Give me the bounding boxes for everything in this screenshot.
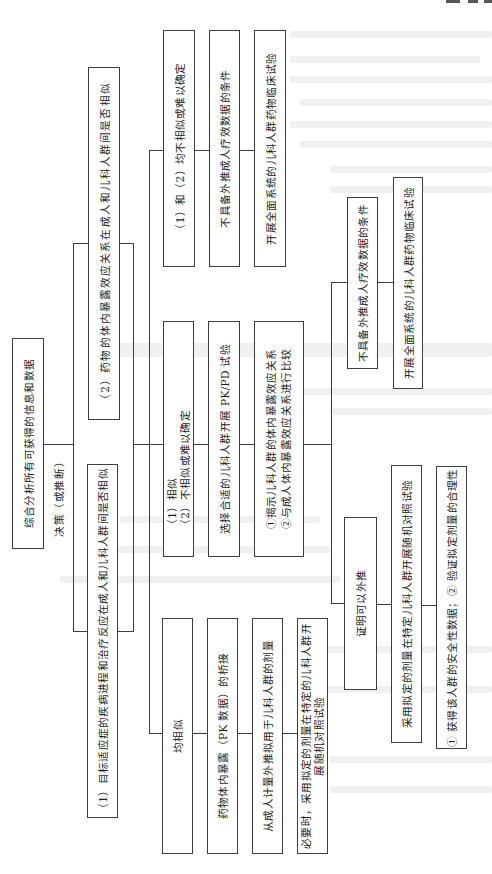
sub-branch-bus-line xyxy=(331,282,332,604)
connector-line xyxy=(422,605,436,606)
connector-line xyxy=(377,604,391,605)
criterion-2-label: （2）药物的体内暴露效应关系在成人和儿科人群间是否相似 xyxy=(97,82,112,404)
connector-line xyxy=(149,150,163,151)
dissimilar-action-box: 开展全面系统的儿科人群药物临床试验 xyxy=(254,30,286,267)
dissimilar-conclusion-label: 不具备外推成人疗效数据的条件 xyxy=(217,69,232,227)
bleed-through-text xyxy=(300,141,492,148)
page-header-fragment xyxy=(484,0,492,3)
root-label: 综合分析所有可获得的信息和数据 xyxy=(21,359,36,529)
pkpd-study-box: 选择合适的儿科人群开展 PK/PD 试验 xyxy=(208,321,240,557)
targeted-rct-box: 采用拟定的剂量在特定儿科人群开展随机对照试验 xyxy=(391,465,422,743)
dose-extrapolation-label: 从成人计量外推拟用于儿科人群的剂量 xyxy=(260,640,275,832)
connector-line xyxy=(283,733,297,734)
dose-extrapolation-box: 从成人计量外推拟用于儿科人群的剂量 xyxy=(252,618,283,854)
bleed-through-text xyxy=(300,388,492,395)
pk-bridging-label: 药物体内暴露（PK 数据）的桥接 xyxy=(215,653,230,819)
connector-line xyxy=(44,444,73,445)
full-pediatric-trial-label: 开展全面系统的儿科人群药物临床试验 xyxy=(401,187,416,379)
extrapolation-proven-label: 证明可以外推 xyxy=(353,570,368,638)
dissimilar-action-label: 开展全面系统的儿科人群药物临床试验 xyxy=(263,52,278,244)
page-header-fragment xyxy=(446,0,460,3)
document-page: 综合分析所有可获得的信息和数据 决策（或推断） （1）目标适应症的疾病进程和治疗… xyxy=(0,0,492,874)
bleed-through-text xyxy=(290,76,492,83)
page-header-fragment xyxy=(468,0,478,3)
connector-line xyxy=(193,733,207,734)
exposure-response-analysis-box: ①揭示儿科人群的体内暴露效应关系 ②与成人体内暴露效应关系进行比较 xyxy=(254,321,304,557)
connector-line xyxy=(331,282,347,283)
partial-condition-line-1: （1）相似 xyxy=(166,478,179,530)
bleed-through-text xyxy=(330,786,492,793)
dissimilar-condition-label: （1）和（2）均不相似或难以确定 xyxy=(172,62,187,234)
full-pediatric-trial-box: 开展全面系统的儿科人群药物临床试验 xyxy=(393,177,423,389)
bleed-through-text xyxy=(300,99,492,106)
rct-goals-box: ① 获得该人群的安全性数据；② 验证拟定剂量的合理性 xyxy=(436,466,467,749)
optional-rct-line-2: 展随机对照试验 xyxy=(313,696,326,775)
partial-condition-line-2: （2）不相似或难以确定 xyxy=(179,410,192,530)
targeted-rct-label: 采用拟定的剂量在特定儿科人群开展随机对照试验 xyxy=(399,480,414,729)
dissimilar-conclusion-box: 不具备外推成人疗效数据的条件 xyxy=(209,30,240,267)
analysis-line-1: ①揭示儿科人群的体内暴露效应关系 xyxy=(264,349,279,530)
connector-line xyxy=(304,444,331,445)
connector-line xyxy=(238,733,252,734)
optional-rct-line-1: 必要时，采用拟定的剂量在特定的儿科人群开 xyxy=(300,623,313,849)
partial-condition-box: （1）相似 （2）不相似或难以确定 xyxy=(163,321,194,557)
connector-line xyxy=(240,444,254,445)
bleed-through-text xyxy=(290,31,492,38)
bleed-through-text xyxy=(290,121,492,128)
pkpd-study-label: 选择合适的儿科人群开展 PK/PD 试验 xyxy=(217,344,232,534)
analysis-line-2: ②与成人体内暴露效应关系进行比较 xyxy=(279,349,294,530)
criterion-2-box: （2）药物的体内暴露效应关系在成人和儿科人群间是否相似 xyxy=(88,67,120,420)
connector-line xyxy=(331,603,344,604)
branch-bus-line xyxy=(149,150,150,734)
connector-line xyxy=(194,444,208,445)
decision-label: 决策（或推断） xyxy=(51,456,66,537)
dissimilar-condition-box: （1）和（2）均不相似或难以确定 xyxy=(163,30,195,267)
criterion-1-box: （1）目标适应症的疾病进程和治疗反应在成人和儿科人群间是否相似 xyxy=(87,464,118,818)
not-extrapolable-box: 不具备外推成人疗效数据的条件 xyxy=(347,197,378,369)
criterion-1-label: （1）目标适应症的疾病进程和治疗反应在成人和儿科人群间是否相似 xyxy=(95,468,110,814)
extrapolation-proven-box: 证明可以外推 xyxy=(344,517,377,690)
bleed-through-text xyxy=(330,166,492,173)
similar-condition-box: 均相似 xyxy=(162,618,193,854)
connector-line xyxy=(149,733,162,734)
rct-goals-label: ① 获得该人群的安全性数据；② 验证拟定剂量的合理性 xyxy=(444,468,459,747)
optional-rct-box: 必要时，采用拟定的剂量在特定的儿科人群开 展随机对照试验 xyxy=(297,618,328,854)
bleed-through-text xyxy=(290,56,480,63)
bleed-through-text xyxy=(330,408,492,415)
bleed-through-text xyxy=(330,756,492,763)
not-extrapolable-label: 不具备外推成人疗效数据的条件 xyxy=(355,204,370,362)
connector-line xyxy=(378,282,393,283)
connector-line xyxy=(195,150,209,151)
pk-bridging-box: 药物体内暴露（PK 数据）的桥接 xyxy=(207,618,238,854)
root-box: 综合分析所有可获得的信息和数据 xyxy=(12,338,44,549)
similar-condition-label: 均相似 xyxy=(170,719,185,753)
connector-line xyxy=(240,150,254,151)
